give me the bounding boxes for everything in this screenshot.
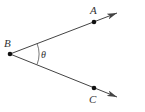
label-b: B	[4, 37, 11, 49]
angle-diagram: A B C θ	[0, 0, 145, 112]
label-c: C	[89, 93, 97, 105]
ray-bc	[10, 54, 117, 97]
angle-arc	[37, 44, 39, 65]
label-a: A	[89, 4, 97, 16]
point-a	[92, 20, 97, 25]
label-theta: θ	[41, 49, 46, 60]
ray-ba	[10, 13, 117, 54]
point-c	[92, 86, 97, 91]
point-b	[8, 52, 13, 57]
